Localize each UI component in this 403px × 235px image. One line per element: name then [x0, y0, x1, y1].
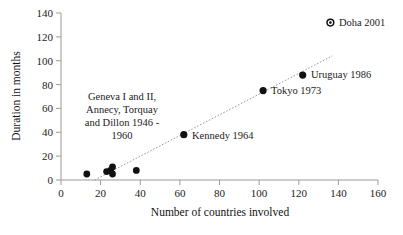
y-tick-label-100: 100 — [37, 55, 54, 67]
y-tick-label-40: 40 — [42, 126, 54, 138]
x-tick-label-100: 100 — [251, 187, 268, 199]
x-tick-label-140: 140 — [330, 187, 347, 199]
data-point-uruguay[interactable] — [299, 72, 306, 79]
x-tick-label-40: 40 — [135, 187, 147, 199]
data-point[interactable] — [109, 171, 116, 178]
annotation-line-1: Geneva I and II, — [88, 91, 156, 102]
point-label-kennedy: Kennedy 1964 — [192, 130, 254, 141]
y-tick-labels: 0 20 40 60 80 100 120 140 — [37, 7, 54, 186]
annotation-line-3: and Dillon 1946 - — [85, 117, 160, 128]
annotation-line-4: 1960 — [112, 130, 133, 141]
x-tick-label-160: 160 — [370, 187, 387, 199]
y-tick-label-80: 80 — [42, 79, 54, 91]
x-tick-label-0: 0 — [58, 187, 64, 199]
y-tick-marks — [56, 13, 61, 180]
data-point[interactable] — [109, 164, 116, 171]
x-tick-label-20: 20 — [95, 187, 107, 199]
y-tick-label-140: 140 — [37, 7, 54, 19]
data-point[interactable] — [83, 171, 90, 178]
point-label-tokyo: Tokyo 1973 — [271, 85, 321, 96]
point-label-doha: Doha 2001 — [339, 17, 385, 28]
data-point[interactable] — [133, 167, 140, 174]
y-tick-label-20: 20 — [42, 150, 54, 162]
data-point-kennedy[interactable] — [180, 131, 187, 138]
y-axis-title: Duration in months — [10, 51, 22, 141]
scatter-chart: 0 20 40 60 80 100 120 140 0 20 40 60 80 — [0, 0, 403, 235]
y-tick-label-60: 60 — [42, 102, 54, 114]
x-tick-label-120: 120 — [291, 187, 308, 199]
y-tick-label-120: 120 — [37, 31, 54, 43]
annotation-early-rounds: Geneva I and II, Annecy, Torquay and Dil… — [85, 91, 160, 141]
data-point-doha[interactable] — [326, 19, 334, 27]
y-tick-label-0: 0 — [48, 174, 54, 186]
x-tick-label-60: 60 — [174, 187, 186, 199]
chart-canvas: 0 20 40 60 80 100 120 140 0 20 40 60 80 — [0, 0, 403, 235]
annotation-line-2: Annecy, Torquay — [86, 104, 159, 115]
x-tick-labels: 0 20 40 60 80 100 120 140 160 — [58, 187, 387, 199]
data-point-tokyo[interactable] — [260, 87, 267, 94]
x-axis-title: Number of countries involved — [151, 206, 290, 218]
point-label-uruguay: Uruguay 1986 — [311, 69, 371, 80]
x-tick-label-80: 80 — [214, 187, 226, 199]
x-tick-marks — [61, 180, 378, 185]
